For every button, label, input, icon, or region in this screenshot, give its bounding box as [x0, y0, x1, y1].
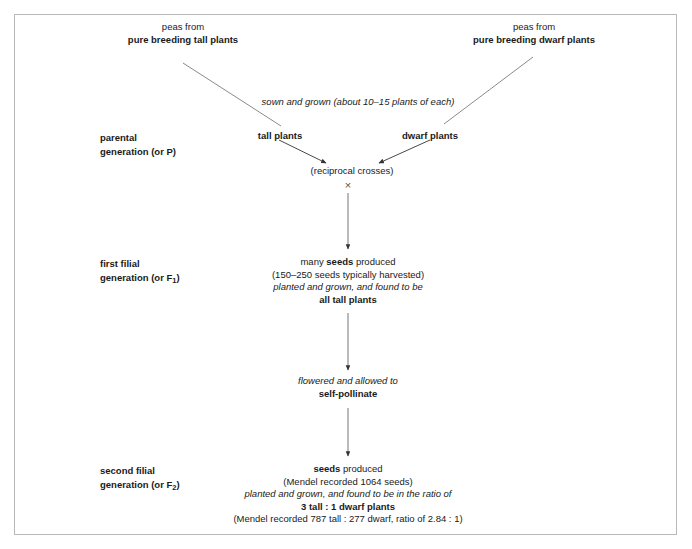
parent-left-line1: peas from — [128, 21, 238, 34]
f1-line1-pre: many — [300, 256, 326, 267]
f2-line1-post: produced — [340, 463, 382, 474]
parent-right-line1: peas from — [473, 21, 595, 34]
generation-label-f1-prefix: generation (or F — [100, 272, 172, 283]
generation-label-f2-prefix: generation (or F — [100, 479, 172, 490]
parent-left-block: peas from pure breeding tall plants — [128, 21, 238, 46]
f2-line5: (Mendel recorded 787 tall : 277 dwarf, r… — [233, 513, 462, 526]
generation-label-f2-line1: second filial — [100, 464, 180, 478]
f1-line2: (150–250 seeds typically harvested) — [272, 269, 424, 282]
generation-label-parental-prefix: generation (or P — [100, 146, 173, 157]
cross-symbol: × — [345, 179, 351, 192]
self-pollinate-block: flowered and allowed to self-pollinate — [298, 375, 398, 400]
f2-block: seeds produced (Mendel recorded 1064 see… — [233, 463, 462, 526]
generation-label-f2: second filial generation (or F2) — [100, 464, 180, 494]
generation-label-f1-suffix: ) — [176, 272, 179, 283]
parent-left-line2: pure breeding tall plants — [128, 34, 238, 47]
f1-line1-post: produced — [353, 256, 395, 267]
f2-line3: planted and grown, and found to be in th… — [233, 488, 462, 501]
f2-line2: (Mendel recorded 1064 seeds) — [233, 476, 462, 489]
generation-label-f2-line2: generation (or F2) — [100, 478, 180, 494]
self-pollinate-line1: flowered and allowed to — [298, 375, 398, 388]
generation-label-parental: parental generation (or P) — [100, 131, 176, 158]
reciprocal-crosses-note: (reciprocal crosses) — [311, 165, 394, 178]
generation-label-parental-suffix: ) — [173, 146, 176, 157]
generation-label-f1: first filial generation (or F1) — [100, 257, 180, 287]
f1-line1-bold: seeds — [326, 256, 353, 267]
parental-left-plants: tall plants — [258, 130, 302, 143]
f2-line1: seeds produced — [233, 463, 462, 476]
parent-right-line2: pure breeding dwarf plants — [473, 34, 595, 47]
diagram-canvas: peas from pure breeding tall plants peas… — [0, 0, 692, 549]
self-pollinate-line2: self-pollinate — [298, 388, 398, 401]
f1-block: many seeds produced (150–250 seeds typic… — [272, 256, 424, 306]
generation-label-parental-line1: parental — [100, 131, 176, 145]
f1-line4: all tall plants — [272, 294, 424, 307]
f2-line1-bold: seeds — [313, 463, 340, 474]
generation-label-f1-line1: first filial — [100, 257, 180, 271]
sowing-note: sown and grown (about 10–15 plants of ea… — [262, 96, 455, 109]
parental-right-plants: dwarf plants — [402, 130, 458, 143]
generation-label-f1-line2: generation (or F1) — [100, 271, 180, 287]
f1-line3: planted and grown, and found to be — [272, 281, 424, 294]
parent-right-block: peas from pure breeding dwarf plants — [473, 21, 595, 46]
f2-line4: 3 tall : 1 dwarf plants — [233, 501, 462, 514]
generation-label-f2-suffix: ) — [176, 479, 179, 490]
f1-line1: many seeds produced — [272, 256, 424, 269]
generation-label-parental-line2: generation (or P) — [100, 145, 176, 159]
